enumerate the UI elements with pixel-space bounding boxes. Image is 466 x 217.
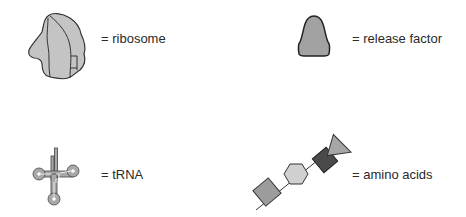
- amino-acid-triangle: [324, 132, 351, 155]
- release-factor-icon: [296, 14, 332, 58]
- trna-icon: [30, 146, 82, 208]
- trna-label: = tRNA: [101, 167, 143, 182]
- release-factor-label: = release factor: [352, 31, 442, 46]
- amino-acid-chain-icon: [248, 122, 352, 212]
- ribosome-label: = ribosome: [101, 31, 166, 46]
- amino-acids-label: = amino acids: [352, 167, 433, 182]
- amino-acid-hexagon: [284, 164, 308, 184]
- amino-acid-square-light: [253, 178, 281, 206]
- ribosome-icon: [26, 10, 88, 78]
